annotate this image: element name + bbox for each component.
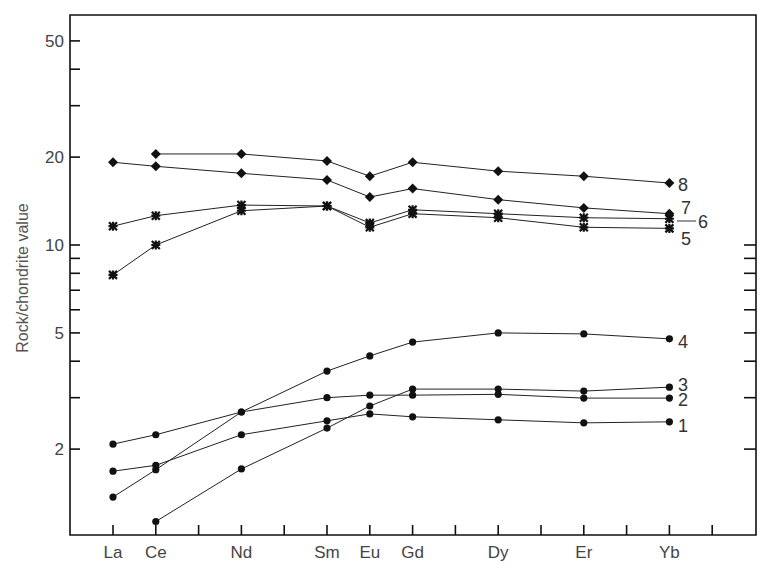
- series-3-line: [156, 387, 670, 521]
- asterisk-marker-icon: [151, 211, 160, 220]
- circle-marker-icon: [666, 384, 673, 391]
- diamond-marker-icon: [664, 209, 674, 219]
- asterisk-marker-icon: [579, 223, 588, 232]
- diamond-marker-icon: [493, 166, 503, 176]
- circle-marker-icon: [366, 392, 373, 399]
- x-tick-label-eu: Eu: [359, 543, 380, 562]
- asterisk-marker-icon: [494, 209, 503, 218]
- circle-marker-icon: [495, 386, 502, 393]
- asterisk-marker-icon: [109, 222, 118, 231]
- circle-marker-icon: [323, 394, 330, 401]
- diamond-marker-icon: [408, 184, 418, 194]
- asterisk-marker-icon: [365, 218, 374, 227]
- circle-marker-icon: [238, 431, 245, 438]
- series-label-1: 1: [678, 416, 688, 436]
- ree-chondrite-chart: 50201052LaCeNdSmEuGdDyErYb Rock/chondrit…: [0, 0, 768, 570]
- diamond-marker-icon: [365, 192, 375, 202]
- plot-frame: [70, 15, 756, 535]
- series-label-5: 5: [681, 229, 691, 249]
- circle-marker-icon: [366, 352, 373, 359]
- series-label-2: 2: [678, 390, 688, 410]
- y-tick-label: 2: [55, 440, 64, 459]
- asterisk-marker-icon: [237, 201, 246, 210]
- circle-marker-icon: [152, 518, 159, 525]
- series-2-line: [113, 394, 669, 444]
- circle-marker-icon: [580, 387, 587, 394]
- diamond-marker-icon: [236, 168, 246, 178]
- diamond-marker-icon: [664, 178, 674, 188]
- diamond-marker-icon: [493, 195, 503, 205]
- diamond-marker-icon: [408, 157, 418, 167]
- x-tick-label-nd: Nd: [231, 543, 253, 562]
- circle-marker-icon: [109, 441, 116, 448]
- circle-marker-icon: [409, 339, 416, 346]
- asterisk-marker-icon: [579, 213, 588, 222]
- diamond-marker-icon: [151, 161, 161, 171]
- circle-marker-icon: [495, 329, 502, 336]
- diamond-marker-icon: [236, 149, 246, 159]
- series-label-8: 8: [678, 175, 688, 195]
- x-tick-label-sm: Sm: [314, 543, 340, 562]
- asterisk-marker-icon: [408, 205, 417, 214]
- circle-marker-icon: [495, 416, 502, 423]
- y-tick-label: 5: [55, 324, 64, 343]
- circle-marker-icon: [109, 493, 116, 500]
- circle-marker-icon: [366, 402, 373, 409]
- x-tick-label-dy: Dy: [488, 543, 509, 562]
- axes: 50201052LaCeNdSmEuGdDyErYb: [45, 15, 756, 562]
- circle-marker-icon: [323, 367, 330, 374]
- circle-marker-icon: [238, 408, 245, 415]
- circle-marker-icon: [238, 465, 245, 472]
- x-tick-label-ce: Ce: [145, 543, 167, 562]
- asterisk-marker-icon: [665, 224, 674, 233]
- x-tick-label-yb: Yb: [659, 543, 680, 562]
- asterisk-marker-icon: [323, 202, 332, 211]
- diamond-marker-icon: [365, 171, 375, 181]
- series-label-7: 7: [681, 198, 691, 218]
- x-tick-label-gd: Gd: [401, 543, 424, 562]
- diamond-marker-icon: [322, 156, 332, 166]
- circle-marker-icon: [109, 468, 116, 475]
- diamond-marker-icon: [108, 157, 118, 167]
- circle-marker-icon: [366, 410, 373, 417]
- series-labels: 87654321: [677, 175, 708, 436]
- circle-marker-icon: [666, 418, 673, 425]
- series-label-6: 6: [698, 212, 708, 232]
- x-tick-label-la: La: [104, 543, 123, 562]
- circle-marker-icon: [580, 395, 587, 402]
- y-tick-label: 20: [45, 148, 64, 167]
- circle-marker-icon: [409, 413, 416, 420]
- circle-marker-icon: [152, 431, 159, 438]
- diamond-marker-icon: [322, 175, 332, 185]
- y-tick-label: 50: [45, 32, 64, 51]
- diamond-marker-icon: [579, 171, 589, 181]
- circle-marker-icon: [666, 395, 673, 402]
- circle-marker-icon: [666, 335, 673, 342]
- diamond-marker-icon: [579, 203, 589, 213]
- asterisk-marker-icon: [109, 270, 118, 279]
- circle-marker-icon: [580, 330, 587, 337]
- diamond-marker-icon: [151, 149, 161, 159]
- y-tick-label: 10: [45, 236, 64, 255]
- circle-marker-icon: [409, 386, 416, 393]
- x-tick-label-er: Er: [575, 543, 592, 562]
- circle-marker-icon: [323, 425, 330, 432]
- series-label-4: 4: [678, 332, 688, 352]
- y-axis-title: Rock/chondrite value: [14, 203, 31, 353]
- circle-marker-icon: [323, 417, 330, 424]
- plot-area: [108, 149, 674, 525]
- circle-marker-icon: [580, 419, 587, 426]
- asterisk-marker-icon: [151, 241, 160, 250]
- circle-marker-icon: [152, 466, 159, 473]
